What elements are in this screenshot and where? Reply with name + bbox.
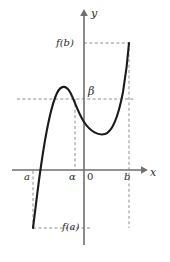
label-f-of-a: f(a)	[62, 222, 79, 232]
x-axis-arrowhead	[141, 166, 148, 174]
figure-container: x y 0 a α b β f(b) f(a)	[0, 0, 170, 262]
label-alpha: α	[69, 172, 76, 182]
y-axis-arrowhead	[80, 9, 88, 16]
origin-label: 0	[87, 172, 93, 182]
x-axis-label: x	[150, 167, 156, 178]
function-graph-svg	[0, 0, 170, 262]
y-axis-label: y	[91, 8, 97, 19]
label-a: a	[24, 172, 30, 182]
cubic-curve	[33, 43, 129, 228]
label-beta: β	[88, 86, 94, 97]
label-b: b	[124, 172, 130, 182]
label-f-of-b: f(b)	[56, 38, 74, 48]
